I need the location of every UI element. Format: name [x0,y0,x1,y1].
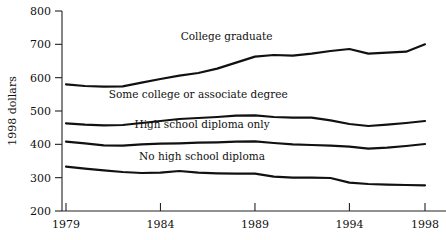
y-tick-label: 300 [30,172,51,185]
x-tick-label: 1998 [411,218,439,231]
x-tick-label: 1984 [146,218,174,231]
y-tick-label: 200 [30,205,51,218]
y-tick-label: 500 [30,105,51,118]
series-label-no-high-school-diploma: No high school diploma [139,150,265,162]
line-chart: 200300400500600700800 197919841989199419… [0,0,446,240]
x-tick-label: 1979 [52,218,80,231]
series-line-college-graduate [66,44,425,86]
y-tick-label: 400 [30,138,51,151]
series-label-high-school-diploma-only: High school diploma only [134,118,269,130]
y-axis-ticks: 200300400500600700800 [30,5,62,218]
y-tick-label: 800 [30,5,51,18]
x-tick-label: 1994 [335,218,363,231]
y-tick-label: 700 [30,38,51,51]
series-line-high-school-diploma-only [66,141,425,148]
series-label-some-college-or-associate-degree: Some college or associate degree [109,88,288,100]
chart-container: 200300400500600700800 197919841989199419… [0,0,446,240]
series-label-college-graduate: College graduate [181,30,273,42]
x-tick-label: 1989 [241,218,269,231]
y-tick-label: 600 [30,72,51,85]
series-lines [66,44,425,185]
x-axis-ticks: 19791984198919941998 [52,203,439,231]
y-axis-title: 1998 dollars [6,76,19,146]
series-line-no-high-school-diploma [66,167,425,186]
